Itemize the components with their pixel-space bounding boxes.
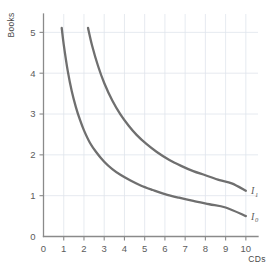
x-tick-label: 9 xyxy=(223,243,228,254)
y-tick-label: 4 xyxy=(30,68,35,79)
curve-label-subscript: 0 xyxy=(255,216,259,223)
x-tick-label: 1 xyxy=(61,243,66,254)
x-tick-label: 10 xyxy=(241,243,252,254)
y-tick-label: 0 xyxy=(30,231,35,242)
y-tick-label: 5 xyxy=(30,27,35,38)
x-tick-label: 5 xyxy=(142,243,147,254)
y-tick-label: 3 xyxy=(30,108,35,119)
y-tick-label: 1 xyxy=(30,190,35,201)
tick-marks-group xyxy=(40,32,246,240)
indifference-curve-i1 xyxy=(88,28,246,191)
curve-label-i0: I0 xyxy=(250,211,259,224)
indifference-curve-chart: 012345678910012345 I1I0 CDs Books xyxy=(0,0,278,273)
curve-labels-group: I1I0 xyxy=(250,185,259,223)
chart-canvas: 012345678910012345 I1I0 CDs Books xyxy=(0,0,278,273)
x-axis-title: CDs xyxy=(248,254,265,264)
curve-label-subscript: 1 xyxy=(255,191,258,198)
y-tick-label: 2 xyxy=(30,149,35,160)
indifference-curve-i0 xyxy=(62,28,246,216)
x-tick-label: 6 xyxy=(162,243,167,254)
x-tick-label: 2 xyxy=(81,243,86,254)
x-tick-label: 8 xyxy=(203,243,208,254)
x-tick-label: 4 xyxy=(122,243,127,254)
gridlines-group xyxy=(44,14,259,237)
x-tick-label: 7 xyxy=(183,243,188,254)
x-tick-label: 3 xyxy=(102,243,107,254)
curves-group xyxy=(62,28,246,216)
y-axis-title: Books xyxy=(6,12,16,37)
curve-label-i1: I1 xyxy=(250,185,258,198)
x-tick-label: 0 xyxy=(41,243,46,254)
